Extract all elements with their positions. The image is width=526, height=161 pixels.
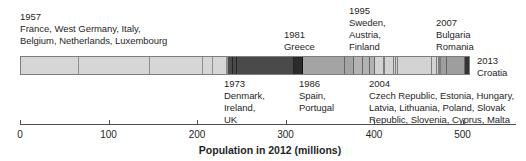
axis-tick (197, 120, 198, 124)
axis-tick-label: 500 (454, 129, 471, 141)
annotation-1973: 1973Denmark,Ireland,UK (224, 78, 265, 126)
annotation-line: 1973 (224, 78, 265, 90)
annotation-line: Spain, (299, 90, 334, 102)
annotation-line: 1995 (349, 5, 386, 17)
annotation-line: Denmark, (224, 90, 265, 102)
bar-segment-hungary (385, 57, 394, 74)
axis-tick (109, 120, 110, 124)
bar-segment-romania (447, 57, 465, 74)
annotation-line: Romania (436, 41, 474, 53)
annotation-line: Belgium, Netherlands, Luxembourg (20, 35, 167, 47)
bar-segment-austria (363, 57, 370, 74)
annotation-line: Greece (284, 41, 315, 53)
axis-tick (463, 120, 464, 124)
annotation-line: Latvia, Lithuania, Poland, Slovak (369, 102, 514, 114)
annotation-2013: 2013Croatia (477, 55, 507, 79)
annotation-line: France, West Germany, Italy, (20, 23, 167, 35)
axis-tick (20, 120, 21, 124)
x-axis-line (20, 124, 516, 125)
annotation-1981: 1981Greece (284, 29, 315, 53)
axis-tick-label: 100 (100, 129, 117, 141)
axis-tick-label: 200 (189, 129, 206, 141)
bar-segment-west-germany (79, 57, 150, 74)
annotation-1986: 1986Spain,Portugal (299, 78, 334, 114)
annotation-line: 1957 (20, 11, 167, 23)
bar-segment-czech-republic (375, 57, 384, 74)
annotation-line: Portugal (299, 102, 334, 114)
annotation-2007: 2007BulgariaRomania (436, 17, 474, 53)
annotation-line: Ireland, (224, 102, 265, 114)
bar-segment-belgium (203, 57, 213, 74)
annotation-line: 1986 (299, 78, 334, 90)
bar-segment-sweden (354, 57, 362, 74)
annotation-line: Croatia (477, 67, 507, 79)
stacked-population-bar (20, 56, 470, 75)
axis-tick-label: 300 (277, 129, 294, 141)
annotation-line: Sweden, (349, 17, 386, 29)
bar-segment-france (21, 57, 79, 74)
axis-tick-label: 0 (17, 129, 23, 141)
annotation-2004: 2004Czech Republic, Estonia, Hungary,Lat… (369, 78, 514, 126)
annotation-line: 2013 (477, 55, 507, 67)
bar-segment-uk (237, 57, 293, 74)
annotation-1957: 1957France, West Germany, Italy,Belgium,… (20, 11, 167, 47)
annotation-line: Finland (349, 41, 386, 53)
annotation-line: Czech Republic, Estonia, Hungary, (369, 90, 514, 102)
bar-segment-netherlands (213, 57, 228, 74)
axis-tick (286, 120, 287, 124)
bar-segment-croatia (465, 57, 469, 74)
eu-enlargement-population-chart: 1957France, West Germany, Italy,Belgium,… (0, 0, 526, 161)
bar-segment-spain (303, 57, 344, 74)
bar-segment-portugal (345, 57, 354, 74)
bar-segment-poland (398, 57, 432, 74)
annotation-line: 2004 (369, 78, 514, 90)
axis-tick (374, 120, 375, 124)
annotation-1995: 1995Sweden,Austria,Finland (349, 5, 386, 53)
bar-segment-greece (294, 57, 304, 74)
annotation-line: 2007 (436, 17, 474, 29)
axis-tick-label: 400 (366, 129, 383, 141)
annotation-line: Bulgaria (436, 29, 474, 41)
annotation-line: Austria, (349, 29, 386, 41)
x-axis-title: Population in 2012 (millions) (20, 144, 520, 157)
bar-segment-italy (150, 57, 203, 74)
annotation-line: 1981 (284, 29, 315, 41)
